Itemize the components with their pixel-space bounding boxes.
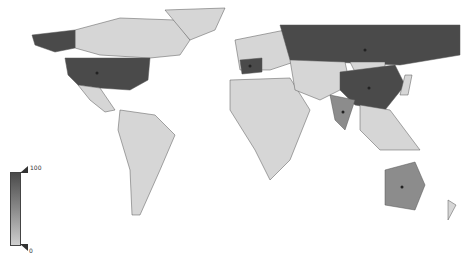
usa[interactable] [65, 58, 150, 90]
australia[interactable] [385, 162, 425, 210]
world-map [0, 0, 471, 262]
southeast-asia[interactable] [360, 105, 420, 150]
canada[interactable] [75, 18, 190, 58]
mexico-central-america[interactable] [78, 85, 115, 112]
marker-india [342, 111, 345, 114]
marker-australia [401, 186, 404, 189]
marker-usa [96, 72, 99, 75]
legend-min-triangle-icon [20, 244, 28, 251]
legend-max-label: 100 [30, 164, 41, 171]
russia[interactable] [280, 25, 460, 65]
south-america[interactable] [118, 110, 175, 215]
legend-min-label: 0 [29, 247, 33, 254]
africa[interactable] [230, 78, 310, 180]
marker-china [368, 87, 371, 90]
new-zealand[interactable] [448, 200, 456, 220]
marker-russia [364, 49, 367, 52]
legend-max-triangle-icon [20, 166, 28, 173]
marker-europe [249, 65, 252, 68]
alaska[interactable] [32, 30, 75, 52]
color-scale-legend [10, 172, 21, 246]
